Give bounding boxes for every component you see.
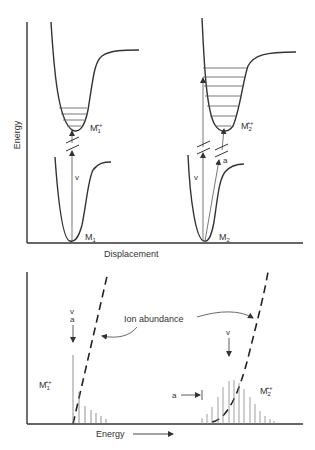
m1-axis-break-icon xyxy=(66,137,79,151)
m1-neutral-potential-curve xyxy=(55,157,111,241)
m2-vertical-axis-break-icon xyxy=(197,141,210,154)
m1-neutral-label: M1 xyxy=(85,232,97,243)
top-x-axis-label: Displacement xyxy=(104,249,159,259)
diagram-canvas: Energy Displacement M1•+ v M1 xyxy=(0,0,315,450)
top-panel: Energy Displacement M1•+ v M1 xyxy=(12,18,303,259)
top-y-axis-label: Energy xyxy=(12,120,22,149)
bottom-x-axis-label: Energy xyxy=(96,429,125,439)
m2-neutral-label: M2 xyxy=(219,232,231,243)
m2-marker-a: a xyxy=(172,391,177,400)
bottom-panel: Energy Ion abundance v a M1•+ xyxy=(27,272,303,439)
m2-ion-abundance-curve xyxy=(212,272,268,422)
m1-ion-abundance-curve xyxy=(73,272,108,424)
m2-ion-potential-curve xyxy=(202,18,296,131)
m2-adiabatic-label: a xyxy=(223,156,228,165)
m2-neutral-potential-curve xyxy=(188,155,244,241)
m1-spectrum-bars xyxy=(73,355,106,424)
m1-ion-label: M1•+ xyxy=(90,122,103,134)
m2-ion-spectrum-label: M2•+ xyxy=(260,385,273,397)
m2-ion-label: M2•+ xyxy=(241,120,254,132)
ion-abundance-callout-left xyxy=(102,327,137,337)
ion-abundance-callout-right xyxy=(197,312,253,318)
ion-abundance-label: Ion abundance xyxy=(124,314,184,324)
m1-ion-potential-curve xyxy=(51,22,139,131)
m1-transition-label: v xyxy=(75,173,79,182)
m1-marker-a: a xyxy=(70,315,75,324)
m2-vertical-label: v xyxy=(194,173,198,182)
m2-marker-v: v xyxy=(226,328,230,337)
m1-ion-spectrum-label: M1•+ xyxy=(39,379,52,391)
